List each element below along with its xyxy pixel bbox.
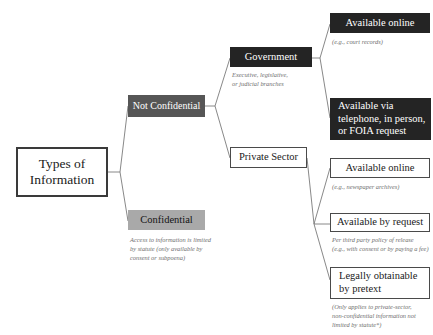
caption-priv-available-online: (e.g., newspaper archives) (332, 182, 430, 191)
connector-private-stem (307, 158, 314, 224)
node-label: Available via telephone, in person, or F… (338, 100, 425, 138)
node-priv-available-by-request[interactable]: Available by request (330, 213, 430, 232)
caption-confidential: Access to information is limited by stat… (130, 235, 234, 262)
connector-root-to-confidential (120, 172, 128, 221)
caption-priv-available-by-request: Per third party policy of release (e.g.,… (332, 235, 433, 253)
connector-notconf-to-private-sector (215, 106, 230, 158)
node-gov-telephone-foia[interactable]: Available via telephone, in person, or F… (330, 98, 431, 140)
node-label: Available online (346, 162, 415, 175)
node-label: Private Sector (239, 151, 298, 164)
node-label: Government (245, 51, 298, 64)
connector-government-to-online (320, 24, 330, 58)
node-private-sector[interactable]: Private Sector (230, 147, 307, 168)
node-confidential[interactable]: Confidential (128, 210, 205, 230)
node-gov-available-online[interactable]: Available online (330, 13, 430, 33)
node-types-of-information[interactable]: Types of Information (16, 147, 108, 197)
node-label: Available online (346, 17, 415, 30)
caption-gov-available-online: (e.g., court records) (332, 37, 430, 46)
node-label: Types of Information (30, 156, 94, 189)
caption-priv-legally-obtainable-by-pretext: (Only applies to private-sector, non-con… (332, 302, 432, 329)
node-priv-available-online[interactable]: Available online (330, 158, 430, 178)
connector-root-to-not-confidential (120, 106, 128, 172)
node-government[interactable]: Government (230, 47, 312, 67)
connector-private-to-pretext (314, 224, 330, 280)
node-label: Legally obtainable by pretext (339, 270, 417, 296)
caption-government: Executive, legislative, or judicial bran… (232, 70, 324, 88)
connector-notconf-to-government (215, 58, 230, 106)
node-label: Not Confidential (133, 100, 201, 112)
connector-private-to-online (314, 168, 330, 224)
node-label: Confidential (140, 214, 193, 227)
node-priv-legally-obtainable-by-pretext[interactable]: Legally obtainable by pretext (330, 267, 430, 299)
diagram-canvas: Types of Information Not Confidential Co… (0, 0, 433, 335)
node-label: Available by request (337, 216, 423, 229)
node-not-confidential[interactable]: Not Confidential (128, 95, 205, 117)
